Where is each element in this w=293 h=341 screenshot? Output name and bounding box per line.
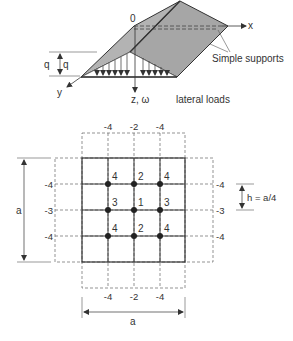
right-label: -4 [216,231,224,242]
top-label: -2 [130,121,138,132]
simple-supports-label: Simple supports [212,53,284,64]
right-label: -3 [216,205,224,216]
q-label-left: q [44,59,50,70]
node-label: 3 [112,197,118,208]
bottom-label: -4 [156,291,164,302]
bottom-label: -4 [104,291,112,302]
q-label-right: q [63,59,69,70]
node-label: 4 [112,171,118,182]
top-label: -4 [156,121,164,132]
left-label: -4 [45,179,53,190]
origin-label: 0 [130,13,136,24]
z-axis-label: z, ω [131,94,150,105]
right-label: -4 [216,179,224,190]
horizontal-dim-label: a [130,316,136,327]
lateral-loads-label: lateral loads [176,94,230,105]
y-axis-label: y [57,87,62,98]
vertical-dim-label: a [16,205,22,216]
node-label: 3 [164,197,170,208]
left-label: -3 [45,205,53,216]
x-axis-label: x [248,20,253,31]
node-label: 4 [112,223,118,234]
node-label: 1 [138,197,144,208]
plate-finite-difference-figure: 0 x y z, ω q q Simple supports lateral l… [0,0,293,341]
plate-3d-view: 0 x y z, ω q q Simple supports lateral l… [44,1,284,105]
node-label: 2 [138,171,144,182]
node-label: 4 [164,171,170,182]
bottom-label: -2 [130,291,138,302]
finite-difference-grid: 4 2 4 3 1 3 4 2 4 -4 -2 -4 -4 -2 -4 -4 -… [16,121,276,327]
node-label: 4 [164,223,170,234]
y-axis-arrow [67,77,81,87]
spacing-label: h = a/4 [247,192,276,203]
node-label: 2 [138,223,144,234]
top-label: -4 [104,121,112,132]
left-label: -4 [45,231,53,242]
